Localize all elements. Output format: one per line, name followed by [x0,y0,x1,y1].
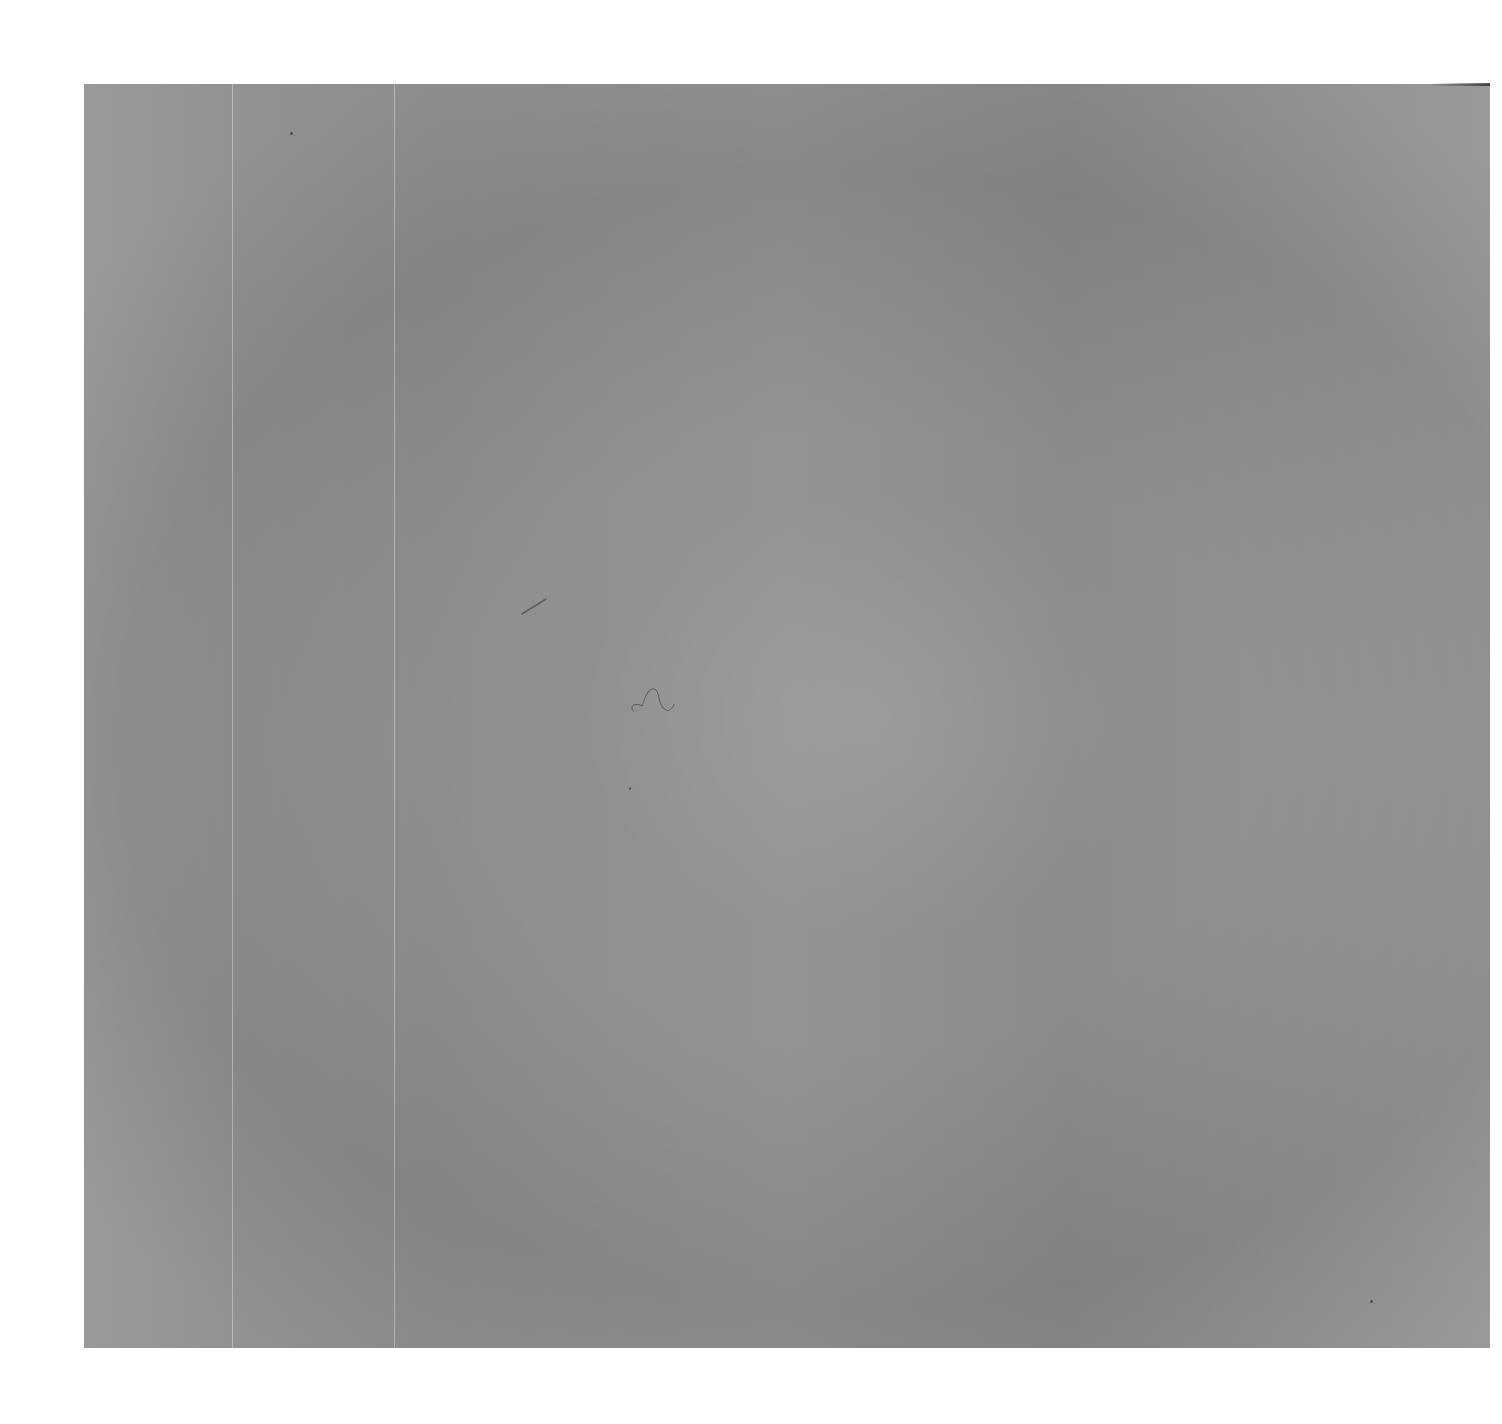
top-edge-shadow [1430,83,1490,86]
scan-canvas [0,0,1502,1424]
hair-fiber [628,684,678,718]
fold-line-middle [394,84,395,1348]
speck [1370,1300,1373,1303]
speck [629,787,631,790]
speck [290,132,293,135]
fold-line-left [232,84,233,1348]
debris-streak [520,596,550,616]
gray-paper-sheet [84,84,1490,1348]
